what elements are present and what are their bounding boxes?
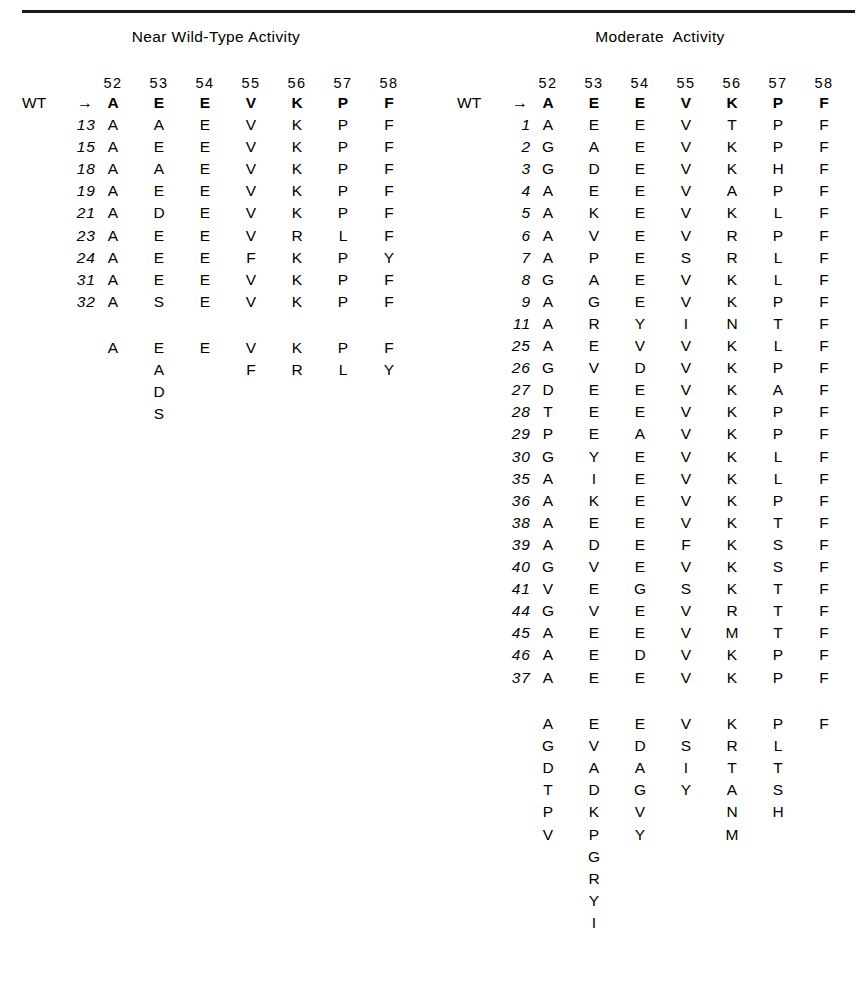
variant-id-2: 2: [469, 136, 531, 158]
residue-cell: F: [807, 534, 841, 556]
residue-cell: A: [531, 512, 565, 534]
variant-row: 46AEDVKPF: [435, 644, 865, 666]
residue-cell: V: [234, 202, 268, 224]
variant-id-37: 37: [469, 667, 531, 689]
variant-id-36: 36: [469, 490, 531, 512]
residue-cell: E: [623, 379, 657, 401]
residue-cell: H: [761, 158, 795, 180]
residue-cell: A: [96, 291, 130, 313]
summary-column-54: EDAGVY: [623, 713, 657, 846]
residue-cell: E: [623, 180, 657, 202]
residue-cell: A: [531, 667, 565, 689]
summary-residue: A: [623, 757, 657, 779]
variant-id-5: 5: [469, 202, 531, 224]
summary-residue: E: [142, 337, 176, 359]
variant-row: 32ASEVKPF: [0, 291, 432, 313]
summary-column-53: EVADKPGRYI: [577, 713, 611, 935]
summary-column-54: E: [188, 337, 222, 359]
residue-cell: P: [531, 423, 565, 445]
residue-cell: E: [623, 556, 657, 578]
wild-type-residue: V: [669, 92, 703, 114]
position-header-56: 56: [280, 72, 314, 94]
variant-row: 44GVEVRTF: [435, 600, 865, 622]
residue-cell: V: [669, 446, 703, 468]
residue-cell: V: [234, 180, 268, 202]
wild-type-residue: A: [531, 92, 565, 114]
position-header-55: 55: [669, 72, 703, 94]
summary-residue: S: [761, 779, 795, 801]
residue-cell: F: [807, 423, 841, 445]
residue-cell: F: [807, 644, 841, 666]
variant-id-1: 1: [469, 114, 531, 136]
residue-cell: F: [807, 269, 841, 291]
residue-cell: V: [669, 225, 703, 247]
residue-cell: V: [577, 556, 611, 578]
summary-residue: V: [669, 713, 703, 735]
residue-cell: E: [577, 180, 611, 202]
variant-id-41: 41: [469, 578, 531, 600]
residue-cell: E: [623, 114, 657, 136]
variant-row: 29PEAVKPF: [435, 423, 865, 445]
residue-cell: E: [188, 136, 222, 158]
residue-cell: S: [761, 556, 795, 578]
residue-cell: P: [326, 202, 360, 224]
residue-cell: E: [577, 512, 611, 534]
residue-cell: F: [807, 335, 841, 357]
summary-column-55: VF: [234, 337, 268, 381]
residue-cell: G: [577, 291, 611, 313]
summary-residue: I: [669, 757, 703, 779]
residue-cell: E: [188, 225, 222, 247]
wild-type-residue: F: [807, 92, 841, 114]
variant-row: 18AAEVKPF: [0, 158, 432, 180]
residue-cell: E: [623, 136, 657, 158]
summary-residue: S: [142, 403, 176, 425]
residue-cell: S: [669, 578, 703, 600]
residue-cell: A: [96, 114, 130, 136]
residue-cell: A: [531, 534, 565, 556]
summary-column-58: FY: [372, 337, 406, 381]
residue-cell: F: [807, 291, 841, 313]
summary-column-58: F: [807, 713, 841, 735]
residue-cell: V: [669, 401, 703, 423]
residue-cell: R: [280, 225, 314, 247]
residue-cell: P: [326, 114, 360, 136]
summary-column-56: KRTANM: [715, 713, 749, 846]
summary-residue: M: [715, 824, 749, 846]
residue-cell: V: [531, 578, 565, 600]
residue-cell: E: [623, 667, 657, 689]
residue-cell: V: [234, 291, 268, 313]
summary-residue: R: [715, 735, 749, 757]
residue-cell: T: [761, 578, 795, 600]
summary-residue: D: [623, 735, 657, 757]
residue-cell: K: [715, 468, 749, 490]
variant-row: 21ADEVKPF: [0, 202, 432, 224]
residue-cell: K: [280, 158, 314, 180]
residue-cell: F: [807, 622, 841, 644]
residue-cell: Y: [623, 313, 657, 335]
variant-row: 35AIEVKLF: [435, 468, 865, 490]
residue-cell: V: [669, 357, 703, 379]
wild-type-residue: F: [372, 92, 406, 114]
residue-cell: P: [761, 180, 795, 202]
residue-cell: V: [669, 423, 703, 445]
residue-cell: E: [188, 291, 222, 313]
summary-residue: S: [669, 735, 703, 757]
variant-row: 40GVEVKSF: [435, 556, 865, 578]
residue-cell: V: [669, 180, 703, 202]
residue-cell: F: [372, 225, 406, 247]
wild-type-residue: E: [623, 92, 657, 114]
variant-row: 4AEEVAPF: [435, 180, 865, 202]
summary-residue: D: [142, 381, 176, 403]
summary-residue: G: [623, 779, 657, 801]
residue-cell: V: [234, 136, 268, 158]
residue-cell: E: [142, 180, 176, 202]
wild-type-label: WT: [22, 92, 68, 114]
residue-cell: T: [761, 512, 795, 534]
summary-residue: F: [372, 337, 406, 359]
position-header-row: 52535455565758: [0, 72, 432, 94]
residue-cell: A: [531, 468, 565, 490]
residue-cell: V: [577, 225, 611, 247]
residue-cell: Y: [577, 446, 611, 468]
summary-residue: V: [577, 735, 611, 757]
position-header-58: 58: [807, 72, 841, 94]
